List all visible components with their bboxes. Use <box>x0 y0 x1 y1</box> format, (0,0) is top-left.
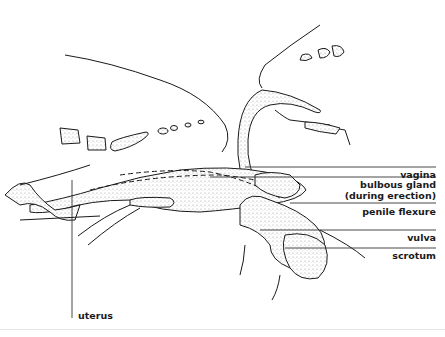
label-penile-flexure: penile flexure <box>362 206 436 217</box>
anatomical-drawing <box>0 0 445 337</box>
vertebra <box>111 132 149 151</box>
label-bulbous-gland-title: bulbous gland <box>345 179 436 190</box>
bull-vertebra <box>300 54 312 61</box>
bull-vertebra <box>332 46 344 57</box>
label-bulbous-gland-subtext: (during erection) <box>345 190 436 201</box>
preputial <box>305 122 340 134</box>
label-scrotum: scrotum <box>392 250 436 261</box>
label-uterus: uterus <box>78 310 113 321</box>
label-bulbous-gland: bulbous gland (during erection) <box>345 179 436 201</box>
vertebra <box>87 136 106 150</box>
bottom-divider <box>0 329 445 330</box>
label-vulva: vulva <box>407 232 436 243</box>
penile-shaft <box>130 197 174 207</box>
vertebra <box>60 128 80 144</box>
bull-vertebra <box>318 48 330 58</box>
